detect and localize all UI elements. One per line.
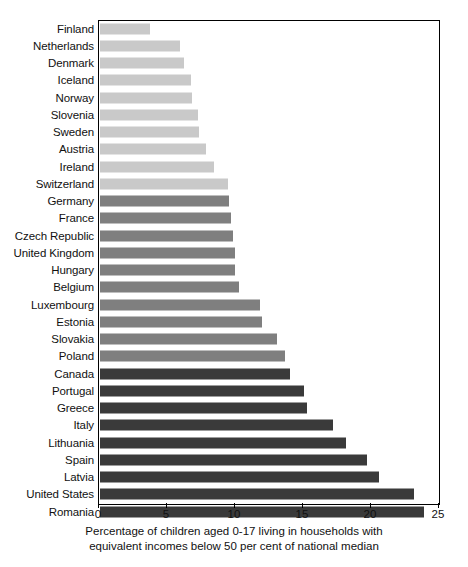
bar-category-label: Denmark [0, 57, 99, 69]
bar-row: Iceland [0, 72, 468, 89]
bar-category-label: United States [0, 488, 99, 500]
bar-row: Slovenia [0, 106, 468, 123]
bar-category-label: Poland [0, 350, 99, 362]
bar-track [99, 296, 441, 313]
bar-track [99, 141, 441, 158]
x-axis-tick-label: 25 [432, 508, 445, 520]
bar-row: Greece [0, 400, 468, 417]
bar [100, 23, 150, 34]
bar-category-label: Greece [0, 402, 99, 414]
bar-category-label: Canada [0, 368, 99, 380]
bar [100, 420, 333, 431]
bar-row: Hungary [0, 262, 468, 279]
x-axis-caption: Percentage of children aged 0-17 living … [34, 524, 434, 554]
bar-track [99, 382, 441, 399]
bar-row: Finland [0, 20, 468, 37]
bar-category-label: Spain [0, 454, 99, 466]
bar-row: Belgium [0, 279, 468, 296]
bar [100, 247, 235, 258]
bar-row: Sweden [0, 124, 468, 141]
bar [100, 472, 379, 483]
bar-category-label: Portugal [0, 385, 99, 397]
bar-track [99, 451, 441, 468]
bar-category-label: Italy [0, 419, 99, 431]
bar-row: Slovakia [0, 331, 468, 348]
bar-track [99, 469, 441, 486]
bar [100, 368, 290, 379]
bar [100, 196, 229, 207]
bar-track [99, 124, 441, 141]
bar [100, 351, 285, 362]
bar-row: France [0, 210, 468, 227]
bar-category-label: Lithuania [0, 437, 99, 449]
bar-row: Latvia [0, 469, 468, 486]
bar [100, 385, 304, 396]
bar [100, 127, 199, 138]
bar-track [99, 331, 441, 348]
bar-category-label: Ireland [0, 161, 99, 173]
caption-line-1: Percentage of children aged 0-17 living … [34, 524, 434, 539]
bar-track [99, 72, 441, 89]
bar-category-label: France [0, 212, 99, 224]
bar-track [99, 244, 441, 261]
bar [100, 144, 206, 155]
bar-track [99, 365, 441, 382]
bar [100, 265, 235, 276]
bar-row: Italy [0, 417, 468, 434]
bar-category-label: Finland [0, 23, 99, 35]
bar-track [99, 193, 441, 210]
bar-track [99, 400, 441, 417]
bar-row: Canada [0, 365, 468, 382]
bar [100, 92, 192, 103]
bar-category-label: Sweden [0, 126, 99, 138]
bar-category-label: United Kingdom [0, 247, 99, 259]
bar [100, 40, 180, 51]
bar-category-label: Luxembourg [0, 299, 99, 311]
bar-row: United Kingdom [0, 244, 468, 261]
bar-track [99, 227, 441, 244]
bar-row: Netherlands [0, 37, 468, 54]
bar-track [99, 262, 441, 279]
x-axis-tick-label: 10 [228, 508, 241, 520]
x-axis-tick-label: 0 [95, 508, 101, 520]
bar-category-label: Romania [0, 506, 99, 518]
bar-row: Spain [0, 451, 468, 468]
bar-track [99, 55, 441, 72]
bar [100, 58, 184, 69]
bar-category-label: Germany [0, 195, 99, 207]
bar-row: Austria [0, 141, 468, 158]
caption-line-2: equivalent incomes below 50 per cent of … [34, 539, 434, 554]
x-axis-tick-label: 5 [163, 508, 169, 520]
bar-row: Czech Republic [0, 227, 468, 244]
bar-track [99, 106, 441, 123]
bar [100, 403, 307, 414]
bar [100, 334, 277, 345]
x-axis-tick-label: 15 [296, 508, 309, 520]
bar-row: Norway [0, 89, 468, 106]
bar-row: Ireland [0, 158, 468, 175]
bar-row: Lithuania [0, 434, 468, 451]
bar [100, 437, 346, 448]
bar-row: Switzerland [0, 175, 468, 192]
bar-track [99, 175, 441, 192]
bar-track [99, 348, 441, 365]
bar-category-label: Iceland [0, 74, 99, 86]
bar-track [99, 210, 441, 227]
bar-row: Germany [0, 193, 468, 210]
bar-track [99, 486, 441, 503]
bar-category-label: Austria [0, 143, 99, 155]
bar-category-label: Latvia [0, 471, 99, 483]
bar-category-label: Norway [0, 92, 99, 104]
bar-category-label: Slovenia [0, 109, 99, 121]
bar-track [99, 417, 441, 434]
bar-category-label: Estonia [0, 316, 99, 328]
bar-row: Portugal [0, 382, 468, 399]
bar-category-label: Switzerland [0, 178, 99, 190]
bar-category-label: Belgium [0, 281, 99, 293]
bar [100, 161, 214, 172]
chart-page: FinlandNetherlandsDenmarkIcelandNorwaySl… [0, 0, 468, 567]
bar-track [99, 89, 441, 106]
bar-row: United States [0, 486, 468, 503]
bar [100, 282, 239, 293]
bar-row: Luxembourg [0, 296, 468, 313]
